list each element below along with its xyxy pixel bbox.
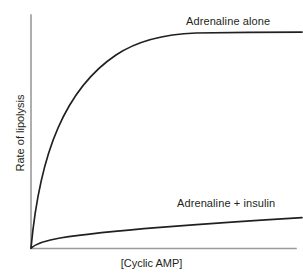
- curve-adrenaline-alone: [31, 32, 302, 248]
- curve-label-adrenaline-plus-insulin: Adrenaline + insulin: [177, 197, 275, 209]
- lipolysis-chart-figure: Adrenaline alone Adrenaline + insulin [C…: [0, 0, 303, 280]
- curve-adrenaline-plus-insulin: [31, 218, 302, 248]
- x-axis-label: [Cyclic AMP]: [0, 257, 303, 269]
- y-axis-label-container: Rate of lipolysis: [14, 63, 30, 203]
- chart-plot-area: [0, 0, 303, 280]
- y-axis-label: Rate of lipolysis: [14, 63, 26, 203]
- curve-label-adrenaline-alone: Adrenaline alone: [186, 15, 270, 27]
